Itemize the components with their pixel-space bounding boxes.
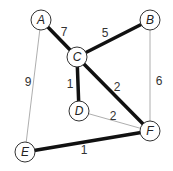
nodes-layer: ABCDEF xyxy=(15,10,160,162)
edge-weight-d-f: 2 xyxy=(110,109,117,123)
edge-weight-b-f: 6 xyxy=(156,74,163,88)
edges-layer xyxy=(25,20,150,152)
node-label: A xyxy=(36,13,45,27)
node-d: D xyxy=(69,101,89,121)
node-a: A xyxy=(31,10,51,30)
node-label: B xyxy=(146,13,154,27)
node-label: E xyxy=(21,145,30,159)
edge-weight-a-e: 9 xyxy=(25,75,32,89)
node-label: F xyxy=(146,124,154,138)
edge-weight-c-d: 1 xyxy=(67,77,74,91)
node-label: D xyxy=(75,104,84,118)
node-f: F xyxy=(140,121,160,141)
edge-c-b xyxy=(77,20,150,57)
node-b: B xyxy=(140,10,160,30)
edge-e-f xyxy=(25,131,150,152)
node-label: C xyxy=(73,50,82,64)
node-e: E xyxy=(15,142,35,162)
edge-weight-c-f: 2 xyxy=(114,80,121,94)
edge-weight-a-c: 7 xyxy=(61,25,68,39)
node-c: C xyxy=(67,47,87,67)
edge-weight-c-b: 5 xyxy=(102,26,109,40)
edge-weight-e-f: 1 xyxy=(81,143,88,157)
graph-diagram: 75122691 ABCDEF xyxy=(0,0,173,171)
